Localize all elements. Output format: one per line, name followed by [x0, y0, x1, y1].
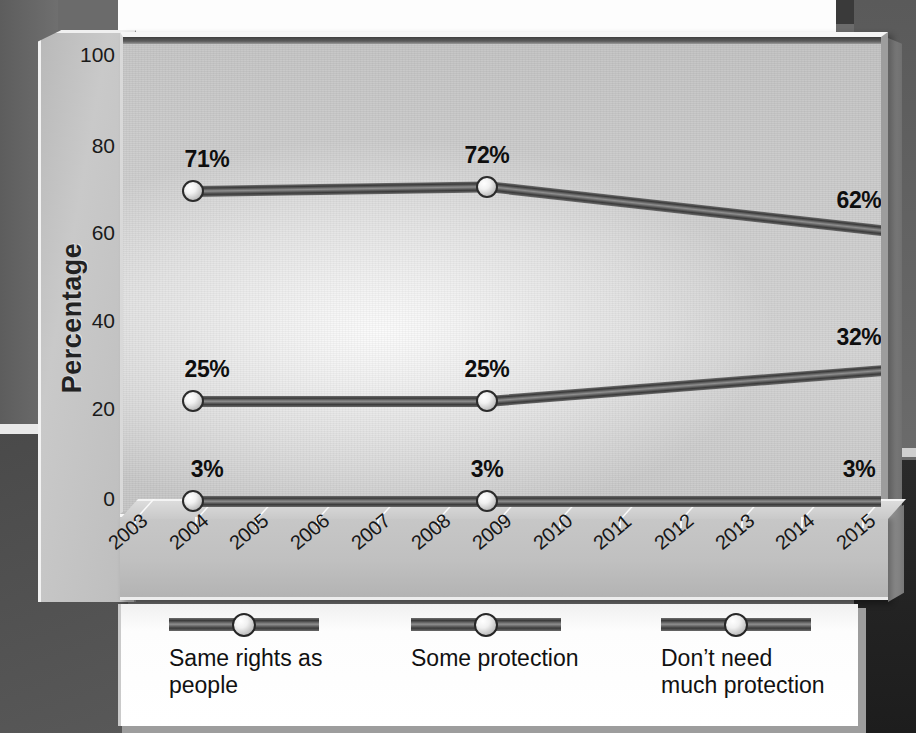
legend-label: Don’t needmuch protection: [661, 645, 846, 699]
y-tick-label-80: 80: [92, 134, 115, 158]
data-point-marker[interactable]: [476, 490, 498, 512]
data-point-marker[interactable]: [182, 490, 204, 512]
y-tick-label-100: 100: [80, 43, 115, 67]
data-point-label: 25%: [185, 356, 230, 383]
y-axis-title: Percentage: [57, 242, 88, 393]
series-line-segment: [193, 181, 487, 197]
data-point-label: 72%: [465, 142, 510, 169]
series-layer: 71%72%62%25%25%32%3%3%3%: [123, 37, 881, 512]
plot-side-wall: [888, 38, 902, 530]
legend-marker-icon: [474, 613, 498, 637]
data-point-label: 62%: [837, 187, 881, 214]
x-axis-bar: 2003200420052006200720082009201020112012…: [120, 514, 888, 600]
data-point-label: 32%: [837, 324, 881, 351]
data-point-marker[interactable]: [476, 390, 498, 412]
x-axis-end-cap: [888, 505, 904, 602]
y-axis-face: Percentage 100 80 60 40 20 0: [51, 33, 131, 602]
legend-item[interactable]: Don’t needmuch protection: [661, 618, 846, 699]
series-line-segment: [486, 181, 881, 238]
data-point-label: 71%: [185, 146, 230, 173]
chart-body: Percentage 100 80 60 40 20 0 71%72%62%25…: [38, 22, 888, 602]
data-point-label: 3%: [843, 456, 875, 483]
data-point-label: 3%: [471, 456, 503, 483]
legend-item[interactable]: Same rights aspeople: [169, 618, 354, 699]
data-point-label: 25%: [465, 356, 510, 383]
data-point-marker[interactable]: [182, 390, 204, 412]
legend-swatch: [169, 618, 319, 631]
legend-swatch: [411, 618, 561, 631]
plot-area: 71%72%62%25%25%32%3%3%3%: [123, 37, 881, 512]
plot-frame: 71%72%62%25%25%32%3%3%3%: [120, 32, 888, 514]
page-background-top-band: [836, 0, 854, 24]
legend: Same rights aspeopleSome protectionDon’t…: [118, 604, 858, 726]
series-line-segment: [193, 496, 487, 507]
y-tick-label-20: 20: [92, 397, 115, 421]
chart-page: Percentage 100 80 60 40 20 0 71%72%62%25…: [0, 0, 916, 733]
y-tick-label-0: 0: [103, 487, 115, 511]
data-point-marker[interactable]: [182, 180, 204, 202]
legend-item[interactable]: Some protection: [411, 618, 596, 672]
legend-marker-icon: [232, 613, 256, 637]
series-line-segment: [487, 364, 881, 407]
series-line-segment: [193, 396, 487, 407]
legend-marker-icon: [724, 613, 748, 637]
legend-label: Same rights aspeople: [169, 645, 354, 699]
y-tick-label-60: 60: [92, 221, 115, 245]
legend-swatch: [661, 618, 811, 631]
series-line-segment: [487, 496, 881, 507]
data-point-marker[interactable]: [476, 176, 498, 198]
y-tick-label-40: 40: [92, 309, 115, 333]
data-point-label: 3%: [191, 456, 223, 483]
legend-label: Some protection: [411, 645, 596, 672]
